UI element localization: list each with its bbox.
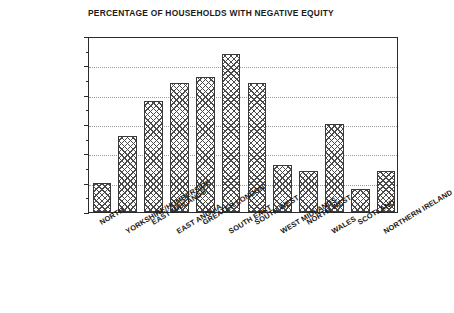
bar [222, 54, 241, 212]
x-axis-tick-labels: NORTHYORKSHIRE/HUMBERSIDEEAST MIDLANDSEA… [0, 213, 422, 313]
gridline [89, 67, 397, 68]
x-axis-tick-label: WALES [330, 214, 358, 236]
gridline [89, 126, 397, 127]
bar [93, 183, 112, 212]
gridline [89, 97, 397, 98]
bar [351, 189, 370, 212]
bar [118, 136, 137, 212]
plot-area [88, 37, 398, 213]
bar [144, 101, 163, 212]
